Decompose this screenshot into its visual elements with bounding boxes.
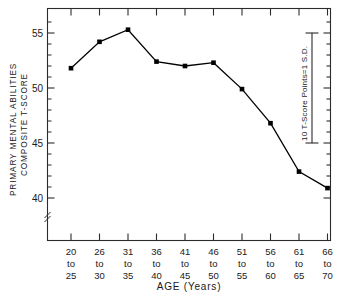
y-axis-tick-label: 50: [32, 83, 44, 94]
x-axis-category-label-line: 45: [180, 270, 191, 281]
data-point: [126, 27, 131, 32]
x-axis-category-label-line: to: [96, 258, 104, 269]
x-axis-category-label-line: 51: [237, 246, 248, 257]
x-axis-category-label-line: to: [210, 258, 218, 269]
x-axis-category-label-line: 20: [66, 246, 77, 257]
x-axis-category-labels: 20to2526to3031to3536to4041to4546to5051to…: [66, 246, 333, 281]
x-axis-category-label-line: to: [124, 258, 132, 269]
x-axis-category-label-line: 26: [94, 246, 105, 257]
x-axis-category-label-line: 66: [322, 246, 333, 257]
y-axis-title-line2: COMPOSITE T-SCORE: [20, 73, 29, 176]
x-axis-category-label-line: 35: [123, 270, 134, 281]
x-axis-category-label-line: 46: [208, 246, 219, 257]
y-axis-tick-label: 55: [32, 28, 44, 39]
data-point: [268, 121, 273, 126]
x-axis-category-label-line: 30: [94, 270, 105, 281]
x-axis-category-label-line: 25: [66, 270, 77, 281]
x-axis-category-label-line: 40: [151, 270, 162, 281]
x-axis-category-label-line: 36: [151, 246, 162, 257]
x-axis-category-label-line: to: [238, 258, 246, 269]
x-axis-title: AGE (Years): [157, 281, 222, 292]
x-axis-category-label-line: 70: [322, 270, 333, 281]
x-axis-category-label-line: 56: [265, 246, 276, 257]
data-point: [69, 66, 74, 71]
data-point: [240, 87, 245, 92]
y-axis-tick-label: 40: [32, 193, 44, 204]
chart-figure: 40455055 20to2526to3031to3536to4041to454…: [0, 0, 348, 297]
data-point: [183, 64, 188, 69]
x-axis-category-label-line: 60: [265, 270, 276, 281]
x-axis-category-label-line: to: [267, 258, 275, 269]
x-axis-category-label-line: 50: [208, 270, 219, 281]
x-axis-category-label-line: 41: [180, 246, 191, 257]
primary-mental-abilities-line-chart: 40455055 20to2526to3031to3536to4041to454…: [0, 0, 348, 297]
y-axis-tick-label: 45: [32, 138, 44, 149]
x-axis-category-label-line: to: [295, 258, 303, 269]
y-axis-title-line1: PRIMARY MENTAL ABILITIES: [9, 63, 18, 196]
data-point: [97, 40, 102, 45]
x-axis-category-label-line: to: [181, 258, 189, 269]
x-axis-category-label-line: 55: [237, 270, 248, 281]
x-axis-category-label-line: 31: [123, 246, 134, 257]
y-axis-tick-labels: 40455055: [32, 28, 44, 204]
x-axis-category-label-line: to: [324, 258, 332, 269]
scale-reference-label: 10 T-Score Points=1 S.D.: [300, 46, 309, 141]
x-axis-category-label-line: 61: [294, 246, 305, 257]
x-axis-category-label-line: to: [153, 258, 161, 269]
x-axis-category-label-line: to: [67, 258, 75, 269]
x-axis-category-label-line: 65: [294, 270, 305, 281]
plot-frame: [48, 9, 331, 241]
data-point: [211, 60, 216, 65]
data-point: [154, 59, 159, 64]
data-point: [297, 169, 302, 174]
data-point: [325, 186, 330, 191]
